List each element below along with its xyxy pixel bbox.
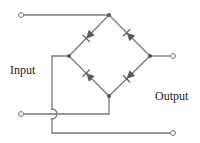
input-label: Input xyxy=(10,64,35,76)
node-left xyxy=(67,54,71,58)
output-label: Output xyxy=(155,90,188,102)
node-right xyxy=(148,54,152,58)
wire-input-bottom xyxy=(24,96,109,114)
terminal-input-bottom xyxy=(19,112,24,117)
terminal-output-bottom xyxy=(171,131,176,136)
terminal-output-top xyxy=(171,54,176,59)
wire-negative-bus xyxy=(52,56,69,109)
node-bottom xyxy=(107,94,111,98)
terminal-input-top xyxy=(19,13,24,18)
node-top xyxy=(107,13,111,17)
wire-output-bottom xyxy=(52,119,170,133)
